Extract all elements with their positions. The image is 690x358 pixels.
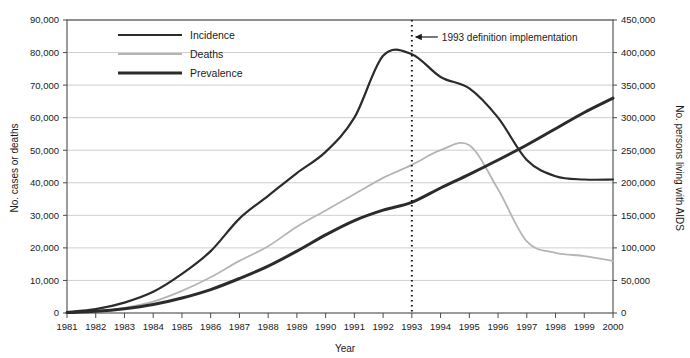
x-axis-tick-label: 1992	[373, 321, 394, 332]
chart-legend: IncidenceDeathsPrevalence	[118, 29, 243, 79]
plot-area-border	[67, 20, 613, 313]
y-axis-left-tick-label: 90,000	[30, 14, 59, 25]
y-axis-right-tick-label: 0	[621, 307, 626, 318]
legend-label-incidence: Incidence	[190, 29, 235, 41]
y-axis-right-tick-label: 300,000	[621, 112, 655, 123]
y-axis-right-tick-label: 350,000	[621, 80, 655, 91]
y-axis-left-tick-label: 10,000	[30, 275, 59, 286]
x-axis-tick-label: 1999	[574, 321, 595, 332]
aids-incidence-deaths-prevalence-chart: 010,00020,00030,00040,00050,00060,00070,…	[0, 0, 690, 358]
y-axis-right-title: No. persons living with AIDS	[674, 105, 685, 231]
series-line-incidence	[67, 50, 613, 312]
y-axis-right-tick-label: 400,000	[621, 47, 655, 58]
legend-label-prevalence: Prevalence	[190, 67, 243, 79]
y-axis-left-tick-label: 50,000	[30, 145, 59, 156]
x-axis-tick-label: 1983	[114, 321, 135, 332]
x-axis-tick-label: 1991	[344, 321, 365, 332]
annotation-label: 1993 definition implementation	[442, 32, 578, 43]
plot-frame	[67, 20, 613, 313]
y-axis-left-tick-label: 80,000	[30, 47, 59, 58]
x-axis-tick-label: 1997	[516, 321, 537, 332]
annotation-arrow-head	[415, 34, 422, 40]
x-axis-tick-label: 1984	[143, 321, 164, 332]
x-axis-tick-label: 1985	[171, 321, 192, 332]
x-axis-tick-label: 1986	[200, 321, 221, 332]
y-axis-left-tick-label: 20,000	[30, 242, 59, 253]
x-axis-tick-label: 1990	[315, 321, 336, 332]
y-axis-left-tick-label: 40,000	[30, 177, 59, 188]
y-axis-left-tick-label: 70,000	[30, 80, 59, 91]
x-axis-title: Year	[335, 343, 356, 354]
y-axis-right-tick-label: 100,000	[621, 242, 655, 253]
x-axis-tick-label: 1988	[258, 321, 279, 332]
y-axis-right-ticks: 050,000100,000150,000200,000250,000300,0…	[613, 14, 655, 318]
legend-label-deaths: Deaths	[190, 48, 223, 60]
annotation-layer: 1993 definition implementation	[412, 20, 578, 313]
y-axis-left-tick-label: 0	[54, 307, 59, 318]
y-axis-right-tick-label: 50,000	[621, 275, 650, 286]
gridlines	[67, 20, 613, 280]
x-axis-tick-label: 1981	[56, 321, 77, 332]
x-axis-tick-label: 1982	[85, 321, 106, 332]
x-axis-tick-label: 1994	[430, 321, 451, 332]
y-axis-right-tick-label: 150,000	[621, 210, 655, 221]
x-axis-tick-label: 1996	[487, 321, 508, 332]
x-axis-tick-label: 2000	[602, 321, 623, 332]
y-axis-left-ticks: 010,00020,00030,00040,00050,00060,00070,…	[30, 14, 67, 318]
series-lines	[67, 50, 613, 313]
y-axis-right-tick-label: 200,000	[621, 177, 655, 188]
x-axis-tick-label: 1998	[545, 321, 566, 332]
y-axis-left-title: No. cases or deaths	[9, 124, 20, 213]
y-axis-right-tick-label: 250,000	[621, 145, 655, 156]
x-axis-tick-label: 1989	[286, 321, 307, 332]
y-axis-left-tick-label: 60,000	[30, 112, 59, 123]
x-axis-ticks: 1981198219831984198519861987198819891990…	[56, 313, 623, 332]
chart-container: 010,00020,00030,00040,00050,00060,00070,…	[0, 0, 690, 358]
x-axis-tick-label: 1995	[459, 321, 480, 332]
y-axis-right-tick-label: 450,000	[621, 14, 655, 25]
x-axis-tick-label: 1987	[229, 321, 250, 332]
x-axis-tick-label: 1993	[401, 321, 422, 332]
y-axis-left-tick-label: 30,000	[30, 210, 59, 221]
